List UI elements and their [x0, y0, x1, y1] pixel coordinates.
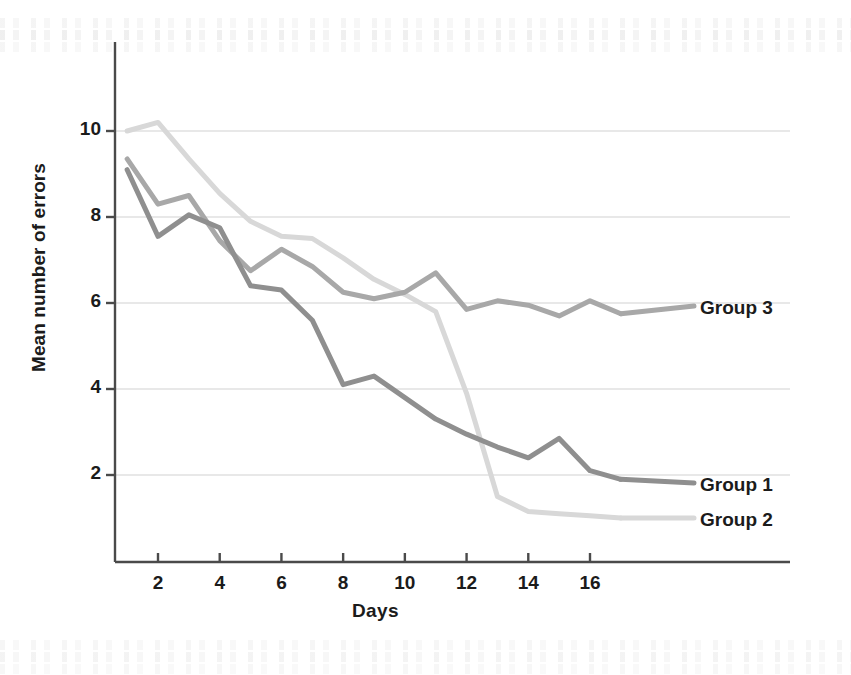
y-tick-label: 8 — [57, 204, 101, 226]
x-tick-label: 14 — [506, 572, 550, 594]
series-line-group-2 — [127, 122, 621, 518]
series-line-group-3 — [127, 159, 621, 316]
x-tick-label: 2 — [136, 572, 180, 594]
y-tick-label: 6 — [57, 290, 101, 312]
x-tick-label: 12 — [445, 572, 489, 594]
y-tick-label: 10 — [57, 118, 101, 140]
x-tick-label: 8 — [321, 572, 365, 594]
group-2-label: Group 2 — [700, 509, 773, 531]
x-axis-title: Days — [352, 600, 399, 622]
group-3-label: Group 3 — [700, 297, 773, 319]
group-1-label: Group 1 — [700, 474, 773, 496]
axis-tick-marks — [106, 131, 590, 562]
y-axis-title: Mean number of errors — [28, 163, 50, 372]
series-label-leaders — [621, 306, 694, 518]
y-tick-label: 4 — [57, 376, 101, 398]
data-series-lines — [127, 122, 621, 518]
x-tick-label: 6 — [259, 572, 303, 594]
x-tick-label: 4 — [198, 572, 242, 594]
x-tick-label: 10 — [383, 572, 427, 594]
line-chart-figure: Mean number of errors Days 246810 246810… — [0, 0, 851, 675]
leader-group-3-label — [621, 306, 694, 314]
x-tick-label: 16 — [568, 572, 612, 594]
gridlines — [115, 131, 790, 475]
y-tick-label: 2 — [57, 462, 101, 484]
leader-group-1-label — [621, 479, 694, 483]
